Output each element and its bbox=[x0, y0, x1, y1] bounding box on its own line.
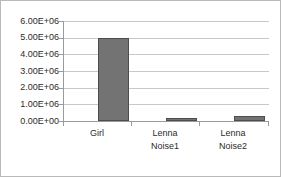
gridline bbox=[63, 54, 269, 55]
gridline bbox=[63, 21, 269, 22]
y-axis-tick-label: 0.00E+00 bbox=[3, 117, 59, 126]
y-axis-tick-label: 2.00E+06 bbox=[3, 83, 59, 92]
gridline bbox=[63, 88, 269, 89]
x-axis-category-line: Lenna bbox=[199, 127, 267, 140]
gridline bbox=[63, 71, 269, 72]
y-axis-tick-label: 4.00E+06 bbox=[3, 50, 59, 59]
y-axis-tick-label: 5.00E+06 bbox=[3, 33, 59, 42]
y-axis-tick-label: 6.00E+06 bbox=[3, 17, 59, 26]
x-axis-category-lenna-noise2: Lenna Noise2 bbox=[199, 127, 267, 153]
x-axis-category-line: Lenna bbox=[131, 127, 199, 140]
plot-area bbox=[63, 21, 269, 121]
bar-chart-figure: 6.00E+06 5.00E+06 4.00E+06 3.00E+06 2.00… bbox=[0, 0, 281, 177]
x-axis-category-lenna-noise1: Lenna Noise1 bbox=[131, 127, 199, 153]
x-axis-category-line: Noise2 bbox=[199, 140, 267, 153]
bar-girl bbox=[98, 38, 129, 121]
y-axis-line bbox=[63, 21, 64, 122]
x-axis-tick-mark bbox=[131, 121, 132, 126]
x-axis-tick-mark bbox=[63, 121, 64, 126]
x-axis-category-girl: Girl bbox=[63, 127, 131, 140]
y-axis-tick-label: 3.00E+06 bbox=[3, 67, 59, 76]
x-axis-category-line: Girl bbox=[63, 127, 131, 140]
gridline bbox=[63, 104, 269, 105]
x-axis-labels: Girl Lenna Noise1 Lenna Noise2 bbox=[63, 127, 269, 173]
x-axis-tick-mark bbox=[199, 121, 200, 126]
y-axis-labels: 6.00E+06 5.00E+06 4.00E+06 3.00E+06 2.00… bbox=[1, 1, 59, 177]
y-axis-tick-label: 1.00E+06 bbox=[3, 100, 59, 109]
gridline bbox=[63, 38, 269, 39]
x-axis-tick-mark bbox=[268, 121, 269, 126]
x-axis-category-line: Noise1 bbox=[131, 140, 199, 153]
x-axis-line bbox=[63, 121, 269, 122]
